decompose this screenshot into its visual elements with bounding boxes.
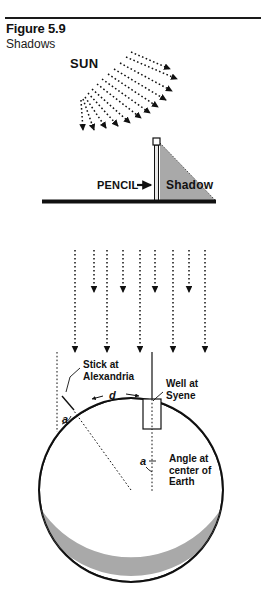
sun-ray — [108, 74, 158, 107]
stick-label-line-2: Alexandria — [83, 371, 134, 382]
angle-a-center-label: a — [140, 456, 146, 467]
distance-d-label: d — [109, 390, 116, 401]
sun-ray — [102, 79, 150, 113]
well-label-line-1: Well at — [166, 378, 198, 389]
angle-a-alexandria-label: a — [62, 414, 68, 425]
angle-at-center-label: Angle at center of Earth — [169, 453, 211, 488]
sun-label: SUN — [70, 58, 99, 69]
parallel-rays-group — [75, 250, 205, 352]
angle-label-line-2: center of — [169, 465, 211, 476]
stick-label-line-1: Stick at — [83, 359, 119, 370]
stick-leader-line — [66, 368, 80, 392]
pencil-label: PENCIL — [97, 180, 139, 191]
sun-ray — [114, 69, 166, 100]
pencil-body — [155, 145, 159, 201]
angle-label-line-1: Angle at — [169, 453, 208, 464]
figure-illustration — [0, 0, 263, 592]
alexandria-stick — [62, 396, 74, 410]
distance-arrow-right — [126, 394, 139, 396]
shadow-label: Shadow — [166, 180, 213, 191]
pencil-cap — [153, 138, 160, 145]
sun-ray — [85, 97, 106, 128]
stick-at-alexandria-label: Stick at Alexandria — [83, 359, 134, 382]
sun-ray — [131, 52, 170, 69]
well-at-syene-label: Well at Syene — [166, 378, 198, 401]
sun-ray — [83, 99, 94, 130]
distance-arrow-left — [92, 396, 103, 399]
sun-ray — [88, 93, 118, 126]
figure-container: Figure 5.9 Shadows — [0, 0, 263, 592]
angle-label-line-3: Earth — [169, 476, 195, 487]
sun-ray — [81, 100, 83, 130]
well-label-line-2: Syene — [166, 390, 195, 401]
